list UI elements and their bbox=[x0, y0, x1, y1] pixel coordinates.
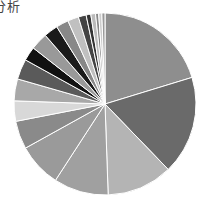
pie-chart bbox=[0, 0, 201, 199]
